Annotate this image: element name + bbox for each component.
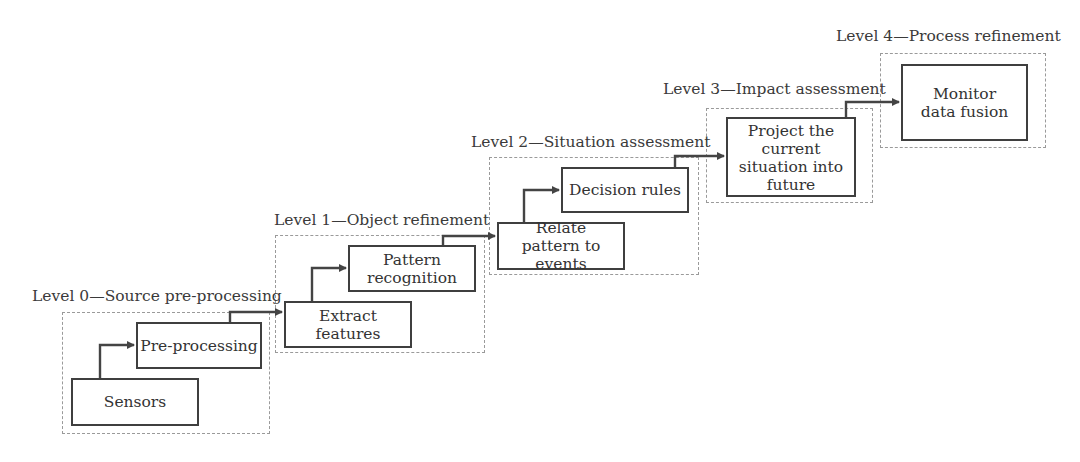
relate-pattern-box: Relate pattern to events (497, 222, 625, 270)
arrow-project-to-monitor (846, 102, 899, 117)
sensors-label: Sensors (104, 393, 166, 411)
arrow-relate-to-decision (524, 190, 559, 222)
sensors-box: Sensors (71, 378, 199, 426)
arrow-sensors-to-preprocessing (100, 345, 134, 378)
preprocessing-label: Pre-processing (140, 337, 258, 355)
pattern-recognition-box: Pattern recognition (348, 245, 476, 292)
decision-rules-label: Decision rules (569, 181, 681, 199)
extract-features-label: Extract features (286, 307, 410, 343)
arrow-extract-to-pattern (312, 268, 346, 301)
arrow-decision-to-project (675, 156, 724, 167)
arrow-pattern-to-relate (443, 236, 495, 245)
project-situation-label: Project the current situation into futur… (738, 122, 844, 194)
preprocessing-box: Pre-processing (136, 322, 262, 369)
decision-rules-box: Decision rules (561, 167, 689, 213)
monitor-data-fusion-label: Monitor data fusion (919, 85, 1010, 121)
pattern-recognition-label: Pattern recognition (367, 251, 457, 287)
monitor-data-fusion-box: Monitor data fusion (901, 64, 1028, 141)
project-situation-box: Project the current situation into futur… (726, 117, 856, 197)
relate-pattern-label: Relate pattern to events (511, 219, 611, 273)
extract-features-box: Extract features (284, 301, 412, 348)
arrow-preprocessing-to-extract (230, 312, 282, 322)
